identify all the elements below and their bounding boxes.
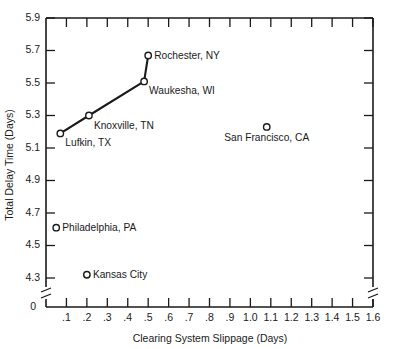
y-tick-label: 5.9 (25, 11, 40, 23)
y-tick-label: 5.7 (25, 43, 40, 55)
data-point-label: Kansas City (93, 269, 148, 280)
data-point-label: Waukesha, WI (149, 85, 215, 96)
x-tick-label: .9 (226, 311, 235, 323)
x-tick-label: 1.1 (264, 311, 279, 323)
x-tick-label: .6 (164, 311, 173, 323)
y-tick-label: 5.1 (25, 141, 40, 153)
plot-area: 5.95.75.55.35.14.94.74.54.3 .1.2.3.4.5.6… (0, 0, 400, 349)
y-tick-label: 4.5 (25, 238, 40, 250)
data-point-label: Knoxville, TN (94, 120, 154, 131)
y-axis-break-right (368, 287, 378, 299)
x-tick-label: .7 (185, 311, 194, 323)
y-tick-label: 4.7 (25, 206, 40, 218)
x-tick-label: 1.0 (243, 311, 258, 323)
data-point-marker[interactable] (145, 52, 151, 58)
y-tick-label: 5.5 (25, 76, 40, 88)
x-tick-label: 1.5 (345, 311, 360, 323)
axis-ticks (46, 18, 373, 307)
x-tick-label: 1.4 (325, 311, 340, 323)
x-tick-label: .5 (144, 311, 153, 323)
data-point-marker[interactable] (53, 224, 59, 230)
x-tick-label: 1.6 (366, 311, 381, 323)
data-point-label: Lufkin, TX (65, 137, 111, 148)
x-tick-label: 1.2 (284, 311, 299, 323)
y-axis-title: Total Delay Time (Days) (3, 109, 15, 220)
x-axis-title: Clearing System Slippage (Days) (133, 332, 288, 344)
data-point-marker[interactable] (86, 112, 92, 118)
y-tick-label: 4.9 (25, 173, 40, 185)
y-tick-label: 4.3 (25, 271, 40, 283)
y-axis-break-left (41, 287, 51, 299)
x-tick-label: .1 (62, 311, 71, 323)
x-tick-label: .4 (123, 311, 132, 323)
data-point-labels: Lufkin, TXKnoxville, TNWaukesha, WIRoche… (62, 50, 309, 280)
y-tick-label: 5.3 (25, 108, 40, 120)
axes (46, 18, 373, 307)
x-tick-labels: .1.2.3.4.5.6.7.8.91.01.11.21.31.41.51.6 (62, 311, 380, 323)
data-point-label: San Francisco, CA (224, 132, 309, 143)
scatter-chart: 5.95.75.55.35.14.94.74.54.3 .1.2.3.4.5.6… (0, 0, 400, 349)
origin-label: 0 (30, 300, 36, 312)
data-point-marker[interactable] (84, 272, 90, 278)
data-point-label: Rochester, NY (154, 50, 220, 61)
x-tick-label: 1.3 (304, 311, 319, 323)
axis-break-marks (41, 287, 378, 299)
data-point-marker[interactable] (57, 130, 63, 136)
x-tick-label: .3 (103, 311, 112, 323)
data-point-marker[interactable] (141, 78, 147, 84)
x-tick-label: .8 (205, 311, 214, 323)
data-point-label: Philadelphia, PA (62, 222, 136, 233)
x-tick-label: .2 (82, 311, 91, 323)
data-point-marker[interactable] (264, 124, 270, 130)
y-tick-labels: 5.95.75.55.35.14.94.74.54.3 (25, 11, 40, 283)
